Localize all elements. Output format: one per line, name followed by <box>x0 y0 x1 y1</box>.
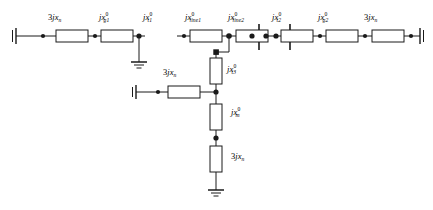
motor-reactance-box <box>210 104 222 130</box>
transformer3-neutral-reactance-box <box>168 86 200 98</box>
transformer3-branch-reference-bus <box>133 85 137 99</box>
transformer3-tap-junction <box>213 49 219 55</box>
label-motor-neutral-reactance: 3jxn <box>231 152 245 161</box>
label-transformer3-neutral-reactance: 3jxn <box>163 68 177 77</box>
left-reference-bus <box>13 28 17 44</box>
label-transformer1-reactance: jx0t1 <box>143 13 152 22</box>
label-line2-reactance: jx0line2 <box>228 13 245 22</box>
label-gen2-reactance: jx0g2 <box>318 13 329 22</box>
label-gen2-neutral-reactance: 3jxn <box>364 13 378 22</box>
line2-reactance-box <box>281 30 313 42</box>
gen1-neutral-reactance-box <box>56 30 88 42</box>
gen2-reactance-box <box>372 30 404 42</box>
label-line1-reactance: jx0line1 <box>185 13 202 22</box>
transformer2-reactance-box <box>326 30 358 42</box>
motor-branch-node-dots <box>213 135 218 140</box>
motor-neutral-reactance-box <box>210 146 222 172</box>
gen1-reactance-box <box>101 30 133 42</box>
label-gen1-neutral-reactance: 3jxn <box>48 13 62 22</box>
circuit-schematic <box>0 0 433 210</box>
label-motor-reactance: jx0m <box>231 108 240 117</box>
zero-sequence-network-diagram: 3jxn jx0g1 jx0t1 jx0line1 jx0line2 jx0t2… <box>0 0 433 210</box>
label-transformer3-reactance: jx0t3 <box>227 65 236 74</box>
label-gen1-reactance: jx0g1 <box>99 13 110 22</box>
motor-neutral-ground <box>208 190 224 196</box>
transformer1-reactance-box <box>190 30 222 42</box>
label-transformer2-reactance: jx0t2 <box>272 13 281 22</box>
transformer3-reactance-box <box>210 58 222 84</box>
right-reference-bus <box>420 28 424 44</box>
